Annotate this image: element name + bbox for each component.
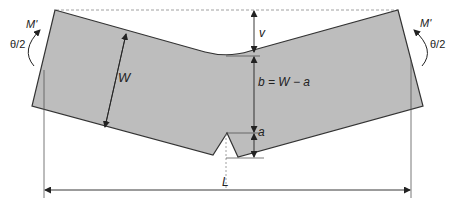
- left-moment-label: M': [26, 18, 38, 30]
- span-label: L: [222, 175, 229, 189]
- left-moment-arrow-icon: [28, 30, 40, 66]
- width-label: W: [118, 70, 132, 85]
- right-angle-label: θ/2: [430, 38, 445, 50]
- right-moment-arrow-icon: [414, 30, 427, 66]
- deflection-label: v: [259, 26, 266, 40]
- crack-length-label: a: [258, 125, 265, 139]
- left-angle-label: θ/2: [10, 38, 25, 50]
- ligament-label: b = W − a: [258, 75, 310, 89]
- notched-beam-diagram: W v b = W − a a L M' θ/2 M' θ/2: [0, 0, 467, 213]
- right-moment-label: M': [420, 17, 432, 29]
- beam-body: [32, 10, 423, 157]
